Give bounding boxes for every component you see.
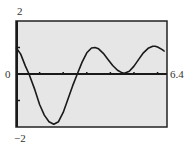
line-chart [0, 0, 189, 152]
y-max-label: 2 [17, 6, 23, 17]
y-min-label: −2 [14, 133, 26, 144]
x-max-label: 6.4 [170, 69, 184, 80]
y-zero-label: 0 [5, 69, 11, 80]
